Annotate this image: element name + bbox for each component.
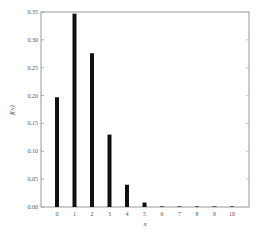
bar [160,206,164,207]
bar [55,97,59,207]
x-tick-label: 6 [161,211,164,217]
pmf-bar-chart: 0.000.050.100.150.200.250.300.35 0123456… [0,0,262,232]
x-tick-label: 2 [91,211,94,217]
x-tick-label: 0 [56,211,59,217]
y-tick-label: 0.30 [28,37,39,43]
bar [108,135,112,207]
x-axis-label: x [142,220,147,228]
bars [55,14,234,207]
x-tick-label: 9 [213,211,216,217]
x-tick-label: 8 [196,211,199,217]
bar [213,206,217,207]
x-axis: 012345678910 [56,211,236,217]
bar [125,185,129,207]
y-tick-label: 0.20 [28,93,39,99]
plot-frame [41,12,249,207]
y-tick-label: 0.15 [28,120,39,126]
bar [143,203,147,207]
y-axis: 0.000.050.100.150.200.250.300.35 [28,9,45,210]
bar [90,53,94,207]
y-tick-label: 0.35 [28,9,39,15]
bar [195,206,199,207]
x-tick-label: 3 [108,211,111,217]
bar [178,206,182,207]
bar [230,206,234,207]
x-tick-label: 10 [229,211,235,217]
bar [73,14,77,207]
x-tick-label: 5 [143,211,146,217]
x-tick-label: 7 [178,211,181,217]
x-tick-label: 1 [73,211,76,217]
y-axis-label: f(x) [8,104,16,114]
y-tick-label: 0.10 [28,148,39,154]
y-tick-label: 0.05 [28,176,39,182]
x-tick-label: 4 [126,211,129,217]
y-tick-label: 0.25 [28,65,39,71]
y-tick-label: 0.00 [28,204,39,210]
